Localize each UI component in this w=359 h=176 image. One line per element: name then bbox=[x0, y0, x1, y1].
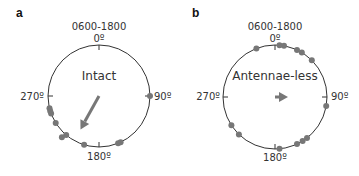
panel-b: b 0600-1800 0º 90º 180º 270º Antennae-le… bbox=[192, 6, 349, 163]
tick-label-180: 180º bbox=[263, 152, 287, 163]
tick-label-90: 90º bbox=[154, 91, 172, 102]
data-point bbox=[81, 142, 87, 148]
data-point bbox=[53, 120, 59, 126]
data-point bbox=[323, 103, 329, 109]
data-point bbox=[294, 141, 300, 147]
data-point bbox=[59, 134, 65, 140]
data-point bbox=[115, 140, 121, 146]
data-point bbox=[281, 43, 287, 49]
condition-label: Antennae-less bbox=[232, 69, 317, 83]
data-point bbox=[228, 122, 234, 128]
mean-vector-arrow bbox=[80, 96, 99, 130]
arrow-shaft bbox=[85, 96, 99, 122]
arrow-head bbox=[279, 92, 288, 102]
tick-label-90: 90º bbox=[331, 91, 349, 102]
data-point bbox=[253, 46, 259, 52]
figure: a 0600-1800 0º 90º 180º 270º Intact b 06… bbox=[0, 0, 359, 176]
tick-label-180: 180º bbox=[87, 151, 111, 162]
data-point bbox=[47, 105, 53, 111]
data-point bbox=[147, 93, 153, 99]
time-window-label: 0600-1800 bbox=[248, 21, 303, 32]
tick-label-270: 270º bbox=[20, 91, 44, 102]
panel-label: b bbox=[192, 6, 199, 20]
tick-label-270: 270º bbox=[196, 91, 220, 102]
tick-label-0: 0º bbox=[93, 33, 104, 44]
data-point bbox=[236, 131, 242, 137]
panel-label: a bbox=[16, 6, 23, 20]
panel-a: a 0600-1800 0º 90º 180º 270º Intact bbox=[16, 6, 172, 162]
mean-vector-arrow bbox=[275, 92, 288, 102]
data-point bbox=[309, 57, 315, 63]
data-point bbox=[299, 49, 305, 55]
condition-label: Intact bbox=[82, 69, 117, 83]
data-points bbox=[47, 93, 154, 148]
data-point bbox=[300, 138, 306, 144]
data-point bbox=[277, 146, 283, 152]
time-window-label: 0600-1800 bbox=[72, 21, 127, 32]
